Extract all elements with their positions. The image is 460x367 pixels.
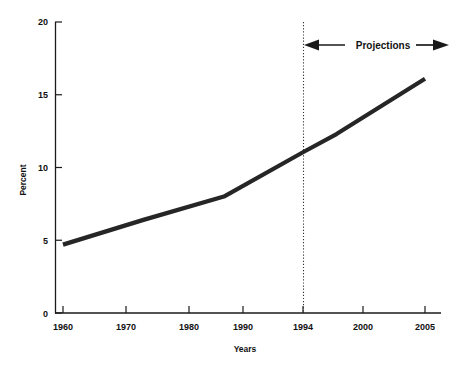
x-tick-label-1980: 1980 bbox=[179, 322, 199, 332]
x-tick-label-2000: 2000 bbox=[353, 322, 373, 332]
x-tick-label-1990: 1990 bbox=[233, 322, 253, 332]
x-tick-marks bbox=[63, 306, 425, 313]
y-tick-label-10: 10 bbox=[38, 163, 48, 173]
y-tick-label-20: 20 bbox=[38, 17, 48, 27]
x-tick-label-1994: 1994 bbox=[293, 322, 313, 332]
y-tick-label-15: 15 bbox=[38, 90, 48, 100]
y-tick-label-5: 5 bbox=[43, 236, 48, 246]
line-chart: 20 15 10 5 0 1960 1970 1980 1990 1994 20… bbox=[0, 0, 460, 367]
x-tick-label-1960: 1960 bbox=[53, 322, 73, 332]
chart-container: 20 15 10 5 0 1960 1970 1980 1990 1994 20… bbox=[0, 0, 460, 367]
x-axis-title: Years bbox=[234, 344, 257, 354]
x-tick-label-2005: 2005 bbox=[415, 322, 435, 332]
projections-arrow-head-right bbox=[433, 40, 449, 51]
series-line-percent bbox=[63, 79, 425, 245]
y-axis-title: Percent bbox=[18, 164, 28, 195]
x-tick-label-1970: 1970 bbox=[116, 322, 136, 332]
y-tick-label-0: 0 bbox=[43, 309, 48, 319]
projections-label: Projections bbox=[356, 40, 411, 51]
projections-arrow-head-left bbox=[304, 40, 319, 51]
projections-annotation: Projections bbox=[304, 40, 449, 51]
